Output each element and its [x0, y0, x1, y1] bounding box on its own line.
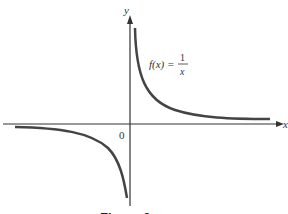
figure-caption: Figure 2 — [100, 210, 151, 214]
curve-negative-branch — [15, 127, 127, 198]
fraction-numerator: 1 — [180, 52, 185, 63]
fraction-denominator: x — [179, 66, 185, 77]
y-axis-arrow-icon — [127, 15, 133, 24]
function-label: f(x) = — [149, 58, 174, 71]
x-axis-label: x — [282, 118, 288, 130]
graph: y x 0 f(x) = 1 x Figure 2 — [0, 0, 288, 214]
curve-positive-branch — [135, 28, 270, 119]
origin-label: 0 — [119, 129, 125, 141]
y-axis-label: y — [123, 4, 129, 16]
